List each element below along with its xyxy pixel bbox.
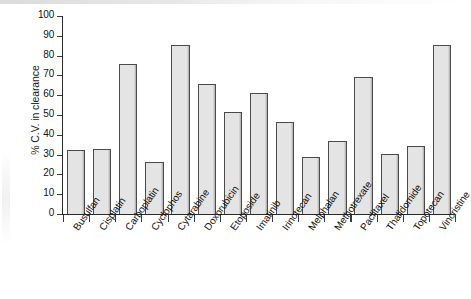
- y-tick-label: 60: [28, 88, 54, 99]
- x-tick-mark: [115, 215, 116, 222]
- y-tick-label: 30: [28, 148, 54, 159]
- y-tick-label: 100: [28, 9, 54, 20]
- y-tick-label: 0: [28, 207, 54, 218]
- x-tick-mark: [350, 215, 351, 222]
- x-tick-mark: [89, 215, 90, 222]
- x-tick-mark: [194, 215, 195, 222]
- y-tick-label: 40: [28, 128, 54, 139]
- x-tick-mark: [272, 215, 273, 222]
- y-tick-label: 10: [28, 187, 54, 198]
- y-tick-label: 70: [28, 68, 54, 79]
- plot-area: [63, 16, 455, 214]
- x-tick-mark: [324, 215, 325, 222]
- x-tick-mark: [63, 215, 64, 222]
- x-tick-mark: [220, 215, 221, 222]
- x-tick-mark: [403, 215, 404, 222]
- bar-busulfan: [67, 150, 85, 214]
- bar-carboplatin: [119, 64, 137, 214]
- x-tick-mark: [246, 215, 247, 222]
- x-tick-mark: [429, 215, 430, 222]
- x-tick-mark: [377, 215, 378, 222]
- scan-artifact-top: [0, 0, 465, 4]
- x-tick-mark: [455, 215, 456, 222]
- y-tick-label: 20: [28, 167, 54, 178]
- y-tick-label: 80: [28, 49, 54, 60]
- y-tick-label: 50: [28, 108, 54, 119]
- x-tick-mark: [168, 215, 169, 222]
- x-tick-mark: [298, 215, 299, 222]
- y-tick-label: 90: [28, 29, 54, 40]
- x-tick-mark: [141, 215, 142, 222]
- bar-irinotecan: [276, 122, 294, 214]
- scan-artifact-left: [2, 150, 10, 245]
